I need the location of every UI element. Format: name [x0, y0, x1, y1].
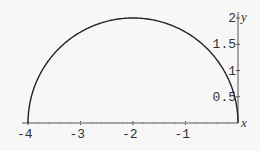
y-tick-label: 0.5 [213, 90, 236, 105]
y-tick-label: 1 [228, 64, 236, 79]
chart-canvas: -4-3-2-1 0.511.52 x y [0, 0, 260, 151]
x-tick-label: -3 [70, 127, 86, 142]
y-ticks: 0.511.52 [213, 11, 240, 105]
y-tick-label: 2 [228, 11, 236, 26]
y-axis-label: y [239, 9, 247, 24]
x-tick-label: -1 [175, 127, 191, 142]
x-tick-label: -2 [122, 127, 138, 142]
semicircle-chart: -4-3-2-1 0.511.52 x y [0, 0, 260, 151]
y-tick-label: 1.5 [213, 37, 236, 52]
x-ticks: -4-3-2-1 [17, 121, 228, 142]
x-axis-label: x [240, 115, 247, 130]
x-tick-label: -4 [17, 127, 33, 142]
semicircle-curve [28, 18, 238, 123]
